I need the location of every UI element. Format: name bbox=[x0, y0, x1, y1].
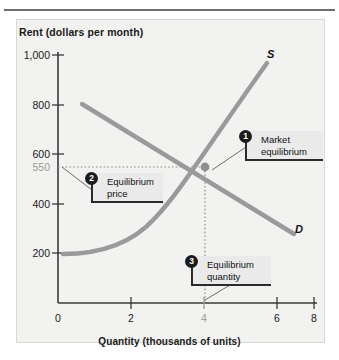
leader-line-market-equilibrium bbox=[212, 147, 246, 170]
supply-curve bbox=[63, 63, 267, 254]
x-tick-label-6: 6 bbox=[267, 312, 287, 324]
callout-market-equilibrium-line2: equilibrium bbox=[261, 146, 317, 158]
x-tick-label-8: 8 bbox=[304, 312, 324, 324]
supply-curve-label: S bbox=[267, 48, 274, 60]
x-axis-title: Quantity (thousands of units) bbox=[0, 336, 339, 347]
callout-badge-1: 1 bbox=[239, 130, 252, 143]
callout-equilibrium-quantity-line1: Equilibrium bbox=[207, 259, 265, 271]
x-tick-label-2: 2 bbox=[121, 312, 141, 324]
callout-equilibrium-quantity: Equilibrium quantity bbox=[191, 256, 271, 286]
chart-plot-area bbox=[0, 0, 339, 360]
callout-market-equilibrium: Market equilibrium bbox=[245, 131, 323, 161]
callout-equilibrium-price: Equilibrium price bbox=[91, 173, 163, 203]
supply-demand-figure: Rent (dollars per month) bbox=[0, 0, 339, 360]
equilibrium-point-marker bbox=[201, 163, 210, 172]
demand-curve bbox=[82, 104, 294, 234]
y-tick-label-600: 600 bbox=[10, 148, 50, 160]
callout-equilibrium-price-line2: price bbox=[107, 188, 157, 200]
y-tick-label-1000: 1,000 bbox=[10, 49, 50, 61]
y-tick-label-800: 800 bbox=[10, 99, 50, 111]
callout-equilibrium-quantity-line2: quantity bbox=[207, 271, 265, 283]
x-tick-label-4: 4 bbox=[194, 312, 214, 324]
callout-market-equilibrium-line1: Market bbox=[261, 134, 317, 146]
y-tick-label-200: 200 bbox=[10, 247, 50, 259]
callout-equilibrium-price-line1: Equilibrium bbox=[107, 176, 157, 188]
y-tick-label-400: 400 bbox=[10, 198, 50, 210]
callout-badge-3: 3 bbox=[185, 255, 198, 268]
callout-badge-2: 2 bbox=[85, 172, 98, 185]
x-tick-label-0: 0 bbox=[48, 312, 68, 324]
y-tick-label-550: 550 bbox=[10, 161, 50, 173]
demand-curve-label: D bbox=[295, 223, 303, 235]
